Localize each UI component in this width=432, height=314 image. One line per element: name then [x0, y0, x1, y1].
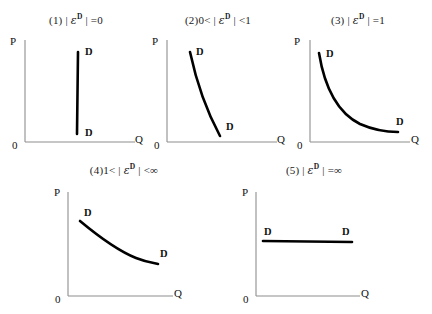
panel-1-superscript: D [77, 12, 83, 21]
panel-5-curve-label-top: D [264, 226, 272, 237]
panel-3-origin-label: 0 [297, 140, 303, 151]
panel-2-demand-curve [190, 52, 220, 136]
panel-5-y-axis-label: P [242, 187, 248, 198]
panel-2-svg [148, 28, 288, 155]
panel-5-title: (5) | εD | =∞ [238, 160, 390, 177]
panel-4-title: (4)1< | εD | <∞ [48, 160, 200, 177]
panel-1-y-axis-label: P [10, 36, 16, 47]
panel-2-superscript: D [225, 12, 231, 21]
panel-1-demand-curve [77, 52, 78, 134]
panel-5-plot: P 0 Q D D [238, 178, 390, 310]
panel-4-title-prefix: (4)1< | [90, 164, 121, 176]
panel-2-origin-label: 0 [154, 140, 160, 151]
panel-4: (4)1< | εD | <∞ P 0 Q D D [48, 160, 200, 310]
panel-3-title-suffix: | =1 [367, 14, 384, 26]
panel-2-title: (2)0< | εD | <1 [148, 10, 288, 27]
panel-1-curve-label-bottom: D [85, 127, 93, 138]
panel-3-y-axis-label: P [294, 36, 300, 47]
panel-5-curve-label-bottom: D [342, 226, 350, 237]
panel-4-plot: P 0 Q D D [48, 178, 200, 310]
panel-3-curve-label-bottom: D [396, 116, 404, 127]
panel-3-plot: P 0 Q D D [288, 28, 428, 155]
panel-4-curve-label-bottom: D [160, 248, 168, 259]
panel-5-title-prefix: (5) | [286, 164, 305, 176]
panel-2-y-axis-label: P [152, 36, 158, 47]
panel-4-demand-curve [80, 221, 158, 264]
panel-3-title: (3) | εD | =1 [288, 10, 428, 27]
panel-1-curve-label-top: D [85, 46, 93, 57]
panel-2: (2)0< | εD | <1 P 0 Q D D [148, 10, 288, 155]
panel-1-x-axis-label: Q [135, 134, 143, 145]
panel-1-title: (1) | εD | =0 [6, 10, 146, 27]
panel-3-title-prefix: (3) | [331, 14, 350, 26]
panel-5-origin-label: 0 [243, 294, 249, 305]
panel-3-demand-curve [319, 53, 398, 132]
panel-4-title-suffix: | <∞ [138, 164, 158, 176]
panel-3-svg [288, 28, 428, 155]
panel-2-x-axis-label: Q [277, 134, 285, 145]
panel-2-curve-label-bottom: D [226, 121, 234, 132]
panel-3-superscript: D [359, 12, 365, 21]
panel-2-title-prefix: (2)0< | [185, 14, 216, 26]
panel-2-plot: P 0 Q D D [148, 28, 288, 155]
panel-5-title-suffix: | =∞ [322, 164, 342, 176]
panel-5-demand-curve [263, 241, 352, 242]
panel-2-curve-label-top: D [196, 46, 204, 57]
panel-1-origin-label: 0 [12, 140, 18, 151]
panel-4-superscript: D [130, 162, 136, 171]
panel-4-curve-label-top: D [84, 207, 92, 218]
panel-1: (1) | εD | =0 P 0 Q D D [6, 10, 146, 155]
panel-3-x-axis-label: Q [411, 134, 419, 145]
panel-1-svg [6, 28, 146, 155]
panel-1-title-suffix: | =0 [85, 14, 102, 26]
panel-1-plot: P 0 Q D D [6, 28, 146, 155]
panel-2-title-suffix: | <1 [234, 14, 251, 26]
panel-5: (5) | εD | =∞ P 0 Q D D [238, 160, 390, 310]
panel-4-y-axis-label: P [54, 187, 60, 198]
panel-4-origin-label: 0 [55, 294, 61, 305]
panel-5-superscript: D [314, 162, 320, 171]
panel-1-title-prefix: (1) | [49, 14, 68, 26]
panel-4-x-axis-label: Q [174, 288, 182, 299]
panel-5-x-axis-label: Q [361, 288, 369, 299]
panel-3-curve-label-top: D [326, 48, 334, 59]
panel-3: (3) | εD | =1 P 0 Q D D [288, 10, 428, 155]
